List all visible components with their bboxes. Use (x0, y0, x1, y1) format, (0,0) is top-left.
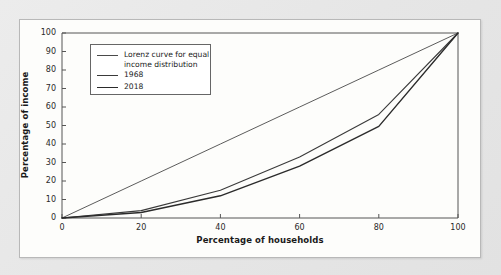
legend-item: Lorenz curve for equal income distributi… (97, 50, 209, 69)
y-tick-label: 40 (34, 139, 56, 148)
x-tick-label: 100 (447, 223, 469, 232)
legend-item: 2018 (97, 82, 143, 92)
legend-item: 1968 (97, 70, 143, 80)
y-axis-title-text: Percentage of income (20, 72, 30, 179)
lorenz-curve-chart: 0102030405060708090100 020406080100 Perc… (0, 0, 501, 275)
x-axis-title: Percentage of households (62, 235, 458, 245)
x-tick-label: 0 (51, 223, 73, 232)
legend-label: Lorenz curve for equal income distributi… (124, 50, 209, 69)
x-tick-label: 80 (368, 223, 390, 232)
chart-legend: Lorenz curve for equal income distributi… (90, 44, 211, 95)
y-axis-ticks (62, 33, 66, 218)
legend-swatch-line-icon (97, 75, 118, 76)
y-tick-label: 60 (34, 102, 56, 111)
x-tick-label: 40 (209, 223, 231, 232)
y-tick-label: 100 (34, 28, 56, 37)
y-tick-label: 30 (34, 158, 56, 167)
legend-label: 2018 (124, 82, 143, 92)
y-tick-label: 50 (34, 121, 56, 130)
y-tick-label: 20 (34, 176, 56, 185)
y-tick-label: 90 (34, 47, 56, 56)
x-tick-label: 20 (130, 223, 152, 232)
y-tick-label: 10 (34, 195, 56, 204)
legend-swatch-line-icon (97, 87, 118, 88)
y-axis-title: Percentage of income (18, 60, 32, 190)
x-axis-ticks (62, 214, 458, 218)
y-tick-label: 0 (34, 213, 56, 222)
chart-canvas (0, 0, 501, 275)
y-tick-label: 80 (34, 65, 56, 74)
legend-label: 1968 (124, 70, 143, 80)
y-tick-label: 70 (34, 84, 56, 93)
legend-swatch-line-icon (97, 55, 118, 56)
x-tick-label: 60 (289, 223, 311, 232)
